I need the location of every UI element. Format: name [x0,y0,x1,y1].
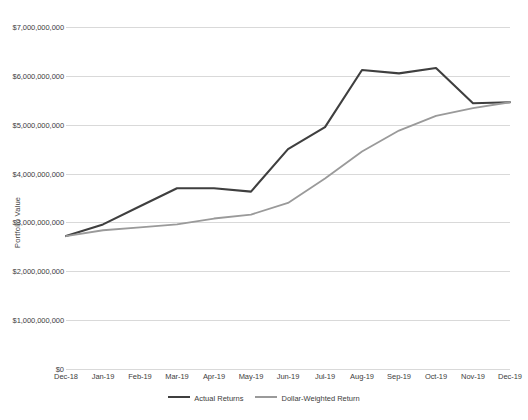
series-line [66,68,510,236]
y-axis-tick-labels: $0$1,000,000,000$2,000,000,000$3,000,000… [0,0,64,420]
x-axis-tick-label: Feb-19 [128,372,151,381]
legend-swatch-icon [168,396,190,398]
legend-label: Dollar-Weighted Return [281,394,359,403]
x-axis-tick-label: Nov-19 [461,372,485,381]
series-layer [66,27,510,369]
portfolio-value-line-chart: Portfolio Value $0$1,000,000,000$2,000,0… [0,0,528,420]
y-axis-tick-label: $6,000,000,000 [0,71,64,80]
y-axis-tick-label: $5,000,000,000 [0,120,64,129]
x-axis-tick-label: Apr-19 [203,372,225,381]
legend-item[interactable]: Actual Returns [168,393,243,403]
legend-swatch-icon [255,396,277,398]
legend-label: Actual Returns [194,394,243,403]
x-axis-tick-label: Oct-19 [425,372,447,381]
series-line [66,102,510,236]
y-axis-tick-label: $7,000,000,000 [0,23,64,32]
x-axis-tick-label: Mar-19 [165,372,188,381]
chart-legend: Actual ReturnsDollar-Weighted Return [0,393,528,403]
x-axis-tick-label: Jun-19 [277,372,300,381]
x-axis-tick-label: Dec-19 [498,372,522,381]
x-axis-tick-label: Aug-19 [350,372,374,381]
y-axis-tick-label: $3,000,000,000 [0,218,64,227]
y-axis-tick-label: $2,000,000,000 [0,267,64,276]
x-axis-tick-label: May-19 [239,372,264,381]
legend-item[interactable]: Dollar-Weighted Return [255,393,359,403]
y-axis-tick-label: $4,000,000,000 [0,169,64,178]
x-axis-tick-label: Dec-18 [54,372,78,381]
x-axis-tick-label: Jan-19 [92,372,115,381]
plot-area [66,27,510,369]
gridline [66,369,510,370]
x-axis-tick-label: Jul-19 [315,372,335,381]
y-axis-tick-label: $1,000,000,000 [0,316,64,325]
x-axis-tick-label: Sep-19 [387,372,411,381]
